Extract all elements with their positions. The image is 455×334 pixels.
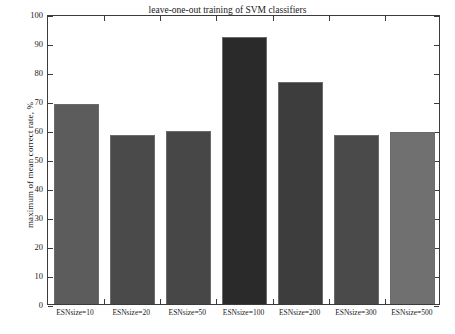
bar[interactable] (278, 82, 323, 304)
x-tick-label: ESNsize=50 (169, 308, 207, 317)
x-tick-label: ESNsize=100 (223, 308, 264, 317)
x-tick-label: ESNsize=300 (335, 308, 376, 317)
y-tick-label: 60 (0, 126, 47, 136)
y-tick-mark (48, 306, 53, 307)
x-tick-label: ESNsize=20 (112, 308, 150, 317)
y-tick-label: 100 (0, 10, 47, 20)
y-tick-label: 90 (0, 39, 47, 49)
y-tick-label: 20 (0, 242, 47, 252)
x-tick-mark (329, 299, 330, 304)
x-tick-mark (104, 299, 105, 304)
bar[interactable] (110, 135, 155, 304)
x-tick-mark (273, 299, 274, 304)
y-tick-mark (48, 132, 53, 133)
bar[interactable] (166, 131, 211, 304)
bar[interactable] (390, 132, 435, 304)
x-tick-label: ESNsize=10 (56, 308, 94, 317)
figure-canvas: leave-one-out training of SVM classifier… (0, 0, 455, 334)
y-tick-label: 10 (0, 271, 47, 281)
x-tick-mark (160, 16, 161, 21)
x-tick-mark (273, 16, 274, 21)
x-tick-mark (385, 299, 386, 304)
y-tick-mark (434, 103, 439, 104)
x-tick-label: ESNsize=500 (391, 308, 432, 317)
y-tick-label: 80 (0, 68, 47, 78)
y-tick-label: 30 (0, 213, 47, 223)
y-tick-mark (48, 248, 53, 249)
y-tick-mark (48, 161, 53, 162)
y-tick-mark (48, 219, 53, 220)
y-tick-mark (434, 16, 439, 17)
y-tick-label: 70 (0, 97, 47, 107)
bar[interactable] (222, 37, 267, 304)
y-tick-label: 0 (0, 300, 47, 310)
y-tick-mark (48, 45, 53, 46)
x-tick-mark (385, 16, 386, 21)
y-tick-label: 50 (0, 155, 47, 165)
x-tick-label: ESNsize=200 (279, 308, 320, 317)
y-tick-mark (48, 190, 53, 191)
y-tick-mark (434, 74, 439, 75)
x-tick-mark (104, 16, 105, 21)
y-tick-mark (434, 306, 439, 307)
x-tick-mark (329, 16, 330, 21)
y-tick-mark (48, 16, 53, 17)
plot-area (47, 15, 440, 305)
x-tick-mark (216, 299, 217, 304)
y-tick-mark (434, 45, 439, 46)
y-tick-mark (48, 103, 53, 104)
chart-title: leave-one-out training of SVM classifier… (0, 5, 455, 15)
y-tick-mark (48, 277, 53, 278)
y-tick-mark (48, 74, 53, 75)
y-tick-label: 40 (0, 184, 47, 194)
bar[interactable] (334, 135, 379, 304)
bar[interactable] (54, 104, 99, 304)
x-tick-mark (216, 16, 217, 21)
x-tick-mark (160, 299, 161, 304)
